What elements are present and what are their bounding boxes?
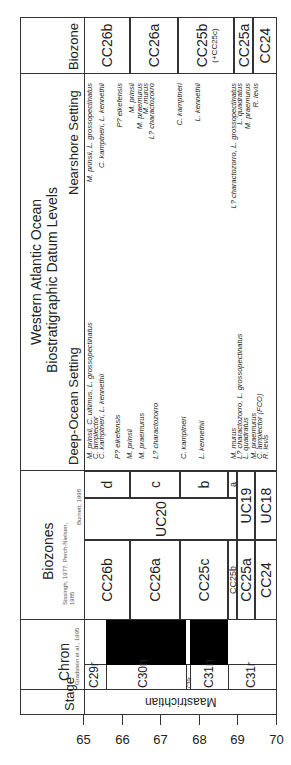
datum: R. levis	[252, 83, 260, 108]
biozones-column: CC26b CC26a CC25c CC25b CC25a CC24 UC20 …	[84, 471, 277, 620]
biozone-column: CC26b CC26a CC25b(+CC25c) CC25a CC24	[84, 17, 277, 74]
subzone-d: d	[84, 471, 130, 498]
axis-label-69: 69	[230, 732, 244, 747]
divider	[106, 665, 107, 690]
zone-cc25c: CC25c	[180, 540, 228, 620]
chron-c29r: C29r	[87, 662, 101, 688]
datum: C. kamptneri, L. kennethii	[98, 83, 106, 168]
nearshore-datums: M. prinsii, L. grossopectinatus C. kampt…	[86, 77, 276, 265]
chron-c30n-bar	[106, 620, 186, 665]
chron-c31r: C31r	[244, 662, 258, 688]
axis-tick	[276, 715, 277, 725]
subzone-a: a	[228, 471, 237, 498]
datum: L. kennethii	[198, 421, 206, 459]
subzone-c: c	[130, 471, 180, 498]
biozone-cc25b: CC25b(+CC25c)	[178, 17, 234, 74]
figure-title-line2: Biostratigraphic Datum Levels	[44, 187, 60, 373]
datum: C. kamptneri, L. kennethii	[98, 374, 106, 459]
datum: L. kennethii	[194, 83, 202, 121]
divider	[186, 665, 187, 690]
burnett-reference: Burnett, 1998	[76, 489, 82, 525]
axis-label-68: 68	[192, 732, 206, 747]
chron-header: Chron	[56, 643, 72, 681]
divider	[228, 665, 229, 690]
axis-label-65: 65	[76, 732, 90, 747]
zone-uc20: UC20	[84, 498, 237, 540]
axis-tick	[160, 715, 161, 725]
datum: P? elkefensis	[116, 83, 124, 128]
zone-cc25b: CC25b	[228, 540, 237, 620]
chron-column: C29r C30n C30r C31n C31r	[84, 620, 277, 690]
chron-c31n: C31n	[202, 659, 216, 688]
stage-cell: Maastrichtian	[84, 690, 277, 715]
biozone-cc26a: CC26a	[130, 17, 178, 74]
deep-ocean-header: Deep-Ocean Setting	[66, 347, 81, 465]
datum: C. kamptneri	[180, 416, 188, 459]
axis-tick	[122, 715, 123, 725]
datum: M. praemurus	[138, 413, 146, 459]
biozone-cc25a: CC25a	[234, 17, 253, 74]
chron-reference: Gradstein et al., 1995	[74, 628, 80, 685]
zone-uc19: UC19	[237, 471, 255, 540]
axis-tick	[199, 715, 200, 725]
deep-ocean-datums: M. prinsii, C. ultimus, L. grossopectina…	[86, 269, 276, 469]
divider	[190, 665, 191, 690]
axis-tick	[237, 715, 238, 725]
stage-name: Maastrichtian	[145, 696, 216, 710]
biozone-cc26b: CC26b	[84, 17, 130, 74]
biozone-header: Biozone	[66, 23, 81, 70]
datum: M. prinsii, L. grossopectinatus	[86, 83, 94, 182]
subzone-b: b	[180, 471, 228, 498]
zone-cc26a: CC26a	[130, 540, 180, 620]
biozone-cc24: CC24	[253, 17, 277, 74]
zone-cc24: CC24	[255, 540, 277, 620]
zone-cc26b: CC26b	[84, 540, 130, 620]
zone-cc25a: CC25a	[237, 540, 255, 620]
nearshore-header: Nearshore Setting	[66, 90, 81, 195]
datum: M. prinsii	[126, 429, 134, 459]
axis-label-66: 66	[115, 732, 129, 747]
datum: L? charactozorro	[152, 403, 160, 459]
axis-tick	[83, 715, 84, 725]
datum: R. levis	[262, 434, 270, 459]
axis-label-70: 70	[269, 732, 283, 747]
datum: L? charactozorro	[148, 83, 156, 139]
chron-c30n: C30n	[136, 659, 150, 688]
biozones-header: Biozones	[40, 522, 56, 580]
axis-label-67: 67	[153, 732, 167, 747]
chron-c31n-bar	[190, 620, 228, 665]
figure-title-line1: Western Atlantic Ocean	[28, 199, 44, 345]
biostratigraphy-figure: Stage Chron Gradstein et al., 1995 Biozo…	[0, 0, 291, 765]
zone-uc18: UC18	[255, 471, 277, 540]
datum: P? elkefensis	[114, 414, 122, 459]
sissingh-reference: Sissingh, 1977; Perch-Nielsen, 1985	[62, 515, 76, 605]
datum: C. kamptneri	[176, 83, 184, 126]
